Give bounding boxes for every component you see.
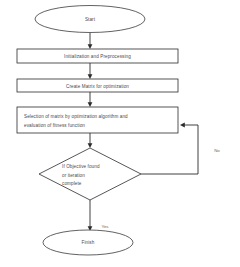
- node-initialization[interactable]: Initialization and Preprocessing: [17, 49, 178, 63]
- node-initialization-label: Initialization and Preprocessing: [64, 54, 131, 59]
- connector-selection-to-decision: [88, 133, 93, 148]
- node-selection-label-line2: evaluation of fitness function: [24, 123, 85, 128]
- node-decision-label-line3: complete: [62, 181, 82, 186]
- edge-label-no: No: [214, 148, 220, 153]
- node-decision-label-line2: or iteration: [62, 173, 85, 178]
- node-create-matrix-label: Create Matrix for optimization: [66, 84, 129, 89]
- connector-create-matrix-to-selection: [88, 92, 93, 107]
- flowchart-canvas: Start Initialization and Preprocessing C…: [0, 0, 240, 267]
- node-create-matrix[interactable]: Create Matrix for optimization: [17, 79, 178, 92]
- node-start[interactable]: Start: [35, 6, 145, 33]
- connector-initialization-to-create-matrix: [88, 63, 93, 79]
- node-start-label: Start: [85, 17, 96, 22]
- node-finish-label: Finish: [82, 240, 95, 245]
- node-selection[interactable]: Selection of matrix by optimization algo…: [17, 107, 178, 133]
- edge-label-yes: Yes: [101, 224, 109, 229]
- connector-start-to-initialization: [88, 33, 93, 49]
- node-decision[interactable]: If Objective found or iteration complete: [39, 148, 141, 200]
- node-decision-label-line1: If Objective found: [62, 164, 100, 169]
- node-selection-label-line1: Selection of matrix by optimization algo…: [24, 114, 128, 119]
- connector-decision-to-finish: [88, 200, 93, 231]
- flowchart-svg: Start Initialization and Preprocessing C…: [0, 0, 240, 267]
- node-finish[interactable]: Finish: [43, 230, 133, 255]
